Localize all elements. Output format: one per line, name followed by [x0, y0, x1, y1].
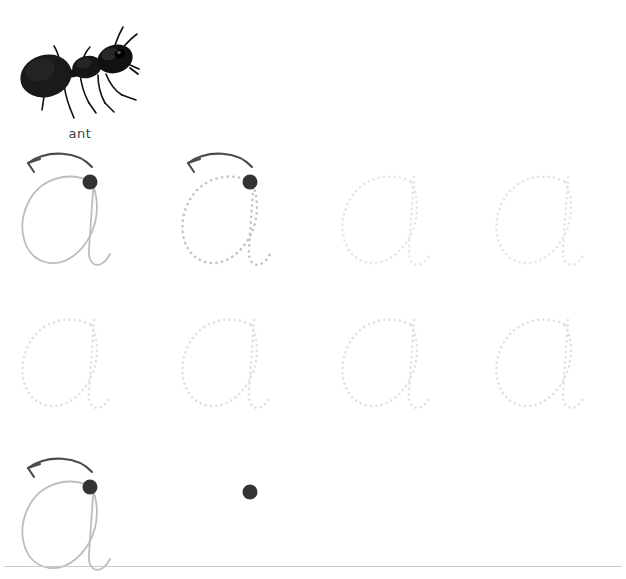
- start-dot-icon: [243, 485, 258, 500]
- practice-row-3: [0, 440, 626, 579]
- letter-slot-2-2[interactable]: [160, 298, 316, 433]
- practice-row-2: [0, 298, 626, 433]
- dotted-letter-a: [320, 298, 476, 433]
- practice-row-1: [0, 145, 626, 290]
- illustration-block: ant: [10, 18, 160, 148]
- letter-slot-2-3[interactable]: [320, 298, 476, 433]
- dotted-letter-a: [474, 298, 626, 433]
- dotted-letter-a: [160, 298, 316, 433]
- worksheet-page: ant: [0, 0, 626, 579]
- letter-slot-3-4[interactable]: [474, 440, 626, 579]
- baseline-rule: [4, 566, 622, 567]
- letter-slot-3-1[interactable]: [0, 440, 156, 579]
- dotted-letter-a: [0, 298, 156, 433]
- ant-photo-icon: [10, 18, 150, 123]
- letter-slot-1-1[interactable]: [0, 145, 156, 290]
- start-dot-icon: [83, 480, 98, 495]
- dotted-letter-a: [320, 145, 476, 290]
- letter-slot-1-3[interactable]: [320, 145, 476, 290]
- letter-slot-1-4[interactable]: [474, 145, 626, 290]
- traced-letter-a: [0, 145, 156, 290]
- letter-slot-3-3[interactable]: [320, 440, 476, 579]
- letter-slot-3-2[interactable]: [160, 440, 316, 579]
- dotted-letter-a: [474, 145, 626, 290]
- start-dot-only: [160, 440, 316, 579]
- word-label: ant: [10, 126, 150, 141]
- letter-slot-2-1[interactable]: [0, 298, 156, 433]
- dotted-letter-a: [160, 145, 316, 290]
- start-dot-icon: [243, 175, 258, 190]
- letter-slot-2-4[interactable]: [474, 298, 626, 433]
- start-dot-icon: [83, 175, 98, 190]
- traced-letter-a: [0, 440, 156, 579]
- letter-slot-1-2[interactable]: [160, 145, 316, 290]
